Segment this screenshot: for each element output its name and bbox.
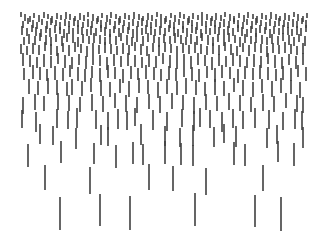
vertical-dash-pattern: [0, 0, 329, 252]
